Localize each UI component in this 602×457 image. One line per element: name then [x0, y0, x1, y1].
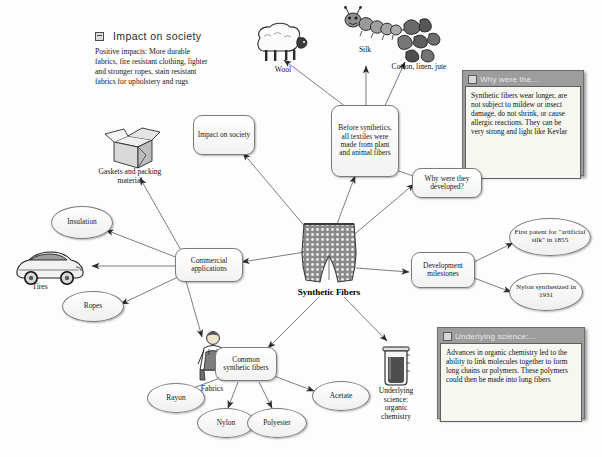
label-fabrics: Fabrics — [184, 385, 240, 394]
car-icon — [17, 252, 83, 284]
node-label: Rayon — [163, 394, 188, 402]
note-body-text: Synthetic fibers wear longer, are not su… — [465, 86, 581, 179]
impact-heading-label: Impact on society — [113, 30, 202, 42]
center-node-label: Synthetic Fibers — [286, 287, 372, 297]
node-label: Acetate — [327, 392, 356, 400]
note-bullet-icon — [95, 32, 104, 41]
impact-on-society-heading: Impact on society — [95, 30, 213, 42]
note-title-bar[interactable]: Why were the... — [465, 73, 581, 86]
concept-map-canvas: Impact on society Positive impacts: More… — [0, 0, 602, 457]
node-label: Development milestones — [412, 262, 474, 279]
note-title-label: Underlying science:... — [455, 332, 536, 341]
why-were-they-note[interactable]: Why were the... Synthetic fibers wear lo… — [462, 70, 584, 176]
node-before-synthetics[interactable]: Before synthetics, all textiles were mad… — [331, 105, 399, 177]
node-label: Why were they developed? — [413, 175, 481, 192]
label-wool: Wool — [258, 66, 308, 75]
node-label: Ropes — [81, 302, 105, 310]
open-box-icon — [105, 128, 160, 168]
label-gaskets: Gaskets and packing material — [86, 168, 174, 185]
beaker-icon — [383, 347, 410, 385]
node-label: Nylon — [214, 419, 238, 427]
node-why-developed[interactable]: Why were they developed? — [412, 168, 482, 198]
node-nylon-synthesized[interactable]: Nylon synthesized in 1931 — [509, 273, 583, 311]
node-label: First patent for "artificial silk" in 18… — [510, 229, 590, 245]
node-ropes[interactable]: Ropes — [62, 291, 124, 322]
node-label: Commercial applications — [176, 257, 242, 274]
node-polyester[interactable]: Polyester — [247, 408, 307, 438]
node-commercial-applications[interactable]: Commercial applications — [175, 248, 243, 282]
impact-on-society-text-block: Impact on society Positive impacts: More… — [95, 30, 213, 87]
label-cotton-linen-jute: Cotton, linen, jute — [390, 63, 448, 72]
note-body-text: Advances in organic chemistry led to the… — [440, 343, 582, 422]
sheep-icon — [258, 23, 307, 61]
node-first-patent[interactable]: First patent for "artificial silk" in 18… — [509, 218, 591, 256]
node-label: Before synthetics, all textiles were mad… — [332, 124, 398, 157]
note-title-label: Why were the... — [480, 75, 539, 84]
label-tires: Tires — [12, 283, 68, 292]
cotton-bolls-icon — [398, 19, 440, 62]
node-acetate[interactable]: Acetate — [312, 381, 370, 411]
node-development-milestones[interactable]: Development milestones — [411, 252, 475, 288]
label-silk: Silk — [340, 46, 390, 55]
underlying-science-note[interactable]: Underlying science:... Advances in organ… — [437, 327, 585, 419]
node-common-synthetic-fibers[interactable]: Common synthetic fibers — [215, 347, 277, 381]
node-impact-on-society[interactable]: Impact on society — [193, 115, 255, 155]
impact-body-text: Positive impacts: More durable fabrics, … — [95, 47, 213, 87]
node-label: Impact on society — [195, 131, 254, 139]
caterpillar-icon — [344, 6, 409, 40]
note-title-bar[interactable]: Underlying science:... — [440, 330, 582, 343]
node-label: Nylon synthesized in 1931 — [510, 284, 582, 300]
label-underlying-science-beaker: Underlying science: organic chemistry — [372, 387, 420, 422]
note-window-icon — [468, 75, 477, 84]
node-label: Insulation — [64, 218, 100, 226]
fabric-shorts-image — [302, 224, 356, 282]
node-label: Common synthetic fibers — [216, 356, 276, 373]
node-insulation[interactable]: Insulation — [51, 206, 113, 239]
note-window-icon — [443, 332, 452, 341]
node-label: Polyester — [260, 419, 294, 427]
